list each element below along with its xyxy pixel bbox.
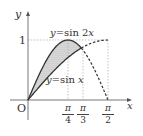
tick-denominator: 3 [77, 115, 89, 125]
tick-numerator: π [62, 104, 74, 115]
label-eq: = [52, 74, 60, 85]
x-tick-pi-over-4: π 4 [62, 104, 74, 125]
curve-label-sin2x: y=sin 2x [50, 28, 94, 38]
curve-sinx-dashed [81, 40, 108, 48]
tick-numerator: π [102, 104, 114, 115]
tick-numerator: π [77, 104, 89, 115]
label-rhs: sin x [60, 74, 84, 85]
tick-denominator: 2 [102, 115, 114, 125]
y-tick-1: 1 [19, 35, 26, 46]
x-tick-pi-over-2: π 2 [102, 104, 114, 125]
x-tick-pi-over-3: π 3 [77, 104, 89, 125]
tick-denominator: 4 [62, 115, 74, 125]
y-axis-label: y [15, 9, 21, 20]
guide-lines [28, 40, 108, 100]
label-eq: = [56, 27, 64, 38]
origin-label: O [17, 103, 26, 114]
curve-sin2x-dashed [81, 48, 108, 100]
curve-label-sinx: y=sin x [46, 75, 84, 85]
x-axis-label: x [127, 101, 133, 111]
label-rhs: sin 2x [64, 27, 94, 38]
y-axis-arrow-icon [26, 11, 30, 16]
